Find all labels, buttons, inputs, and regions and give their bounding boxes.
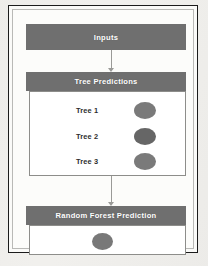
tree-predictions-header-bar: Tree Predictions <box>26 72 186 91</box>
tree-3-label: Tree 3 <box>76 157 120 166</box>
random-forest-panel <box>29 225 186 255</box>
random-forest-label: Random Forest Prediction <box>56 211 157 220</box>
random-forest-ellipse-icon <box>92 233 113 250</box>
random-forest-header-bar: Random Forest Prediction <box>26 206 186 225</box>
tree-predictions-panel: Tree 1 Tree 2 Tree 3 <box>29 91 186 176</box>
arrow-stem <box>111 176 112 202</box>
tree-1-label: Tree 1 <box>76 106 120 115</box>
random-forest-flowchart: Inputs Tree Predictions Tree 1 <box>13 10 193 248</box>
tree-1-ellipse-icon <box>134 102 156 119</box>
inputs-label: Inputs <box>94 33 118 42</box>
tree-3-ellipse-icon <box>134 153 156 170</box>
arrow-down-icon-trees-to-forest <box>106 176 117 206</box>
tree-predictions-label: Tree Predictions <box>74 77 137 86</box>
tree-2-label: Tree 2 <box>76 132 120 141</box>
scanned-page-background: Inputs Tree Predictions Tree 1 <box>0 0 208 266</box>
inputs-header-bar: Inputs <box>26 24 186 50</box>
tree-row: Tree 1 <box>30 96 185 124</box>
tree-row: Tree 3 <box>30 147 185 175</box>
diagram-outer-frame: Inputs Tree Predictions Tree 1 <box>8 5 198 253</box>
tree-2-ellipse-icon <box>134 128 156 145</box>
arrow-stem <box>111 50 112 68</box>
diagram-inner-frame: Inputs Tree Predictions Tree 1 <box>12 9 194 249</box>
arrow-down-icon-inputs-to-trees <box>106 50 117 72</box>
tree-row: Tree 2 <box>30 122 185 150</box>
